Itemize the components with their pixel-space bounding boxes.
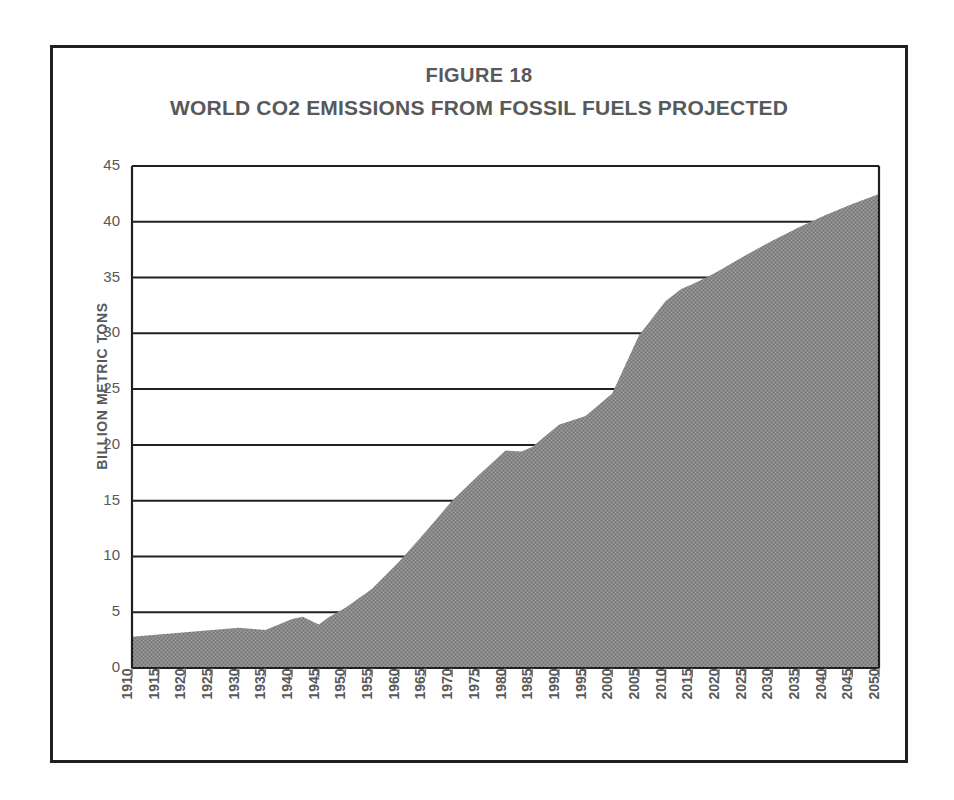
y-tick-label: 35	[103, 268, 120, 285]
x-tick-label: 2030	[759, 668, 775, 699]
x-tick-label: 1915	[146, 668, 162, 699]
x-tick-label: 1985	[519, 668, 535, 699]
x-tick-label: 1940	[279, 668, 295, 699]
x-tick-label: 1960	[386, 668, 402, 699]
y-tick-labels: 051015202530354045	[103, 156, 120, 675]
y-tick-label: 15	[103, 491, 120, 508]
x-tick-label: 1930	[226, 668, 242, 699]
y-tick-label: 10	[103, 546, 120, 563]
y-tick-label: 45	[103, 156, 120, 173]
y-tick-label: 20	[103, 435, 120, 452]
x-tick-label: 2015	[679, 668, 695, 699]
x-tick-label: 1945	[306, 668, 322, 699]
x-tick-label: 1980	[493, 668, 509, 699]
x-tick-labels: 1910191519201925193019351940194519501955…	[119, 668, 882, 699]
y-tick-label: 25	[103, 379, 120, 396]
x-tick-label: 1935	[252, 668, 268, 699]
x-tick-label: 1970	[439, 668, 455, 699]
x-tick-label: 2025	[733, 668, 749, 699]
x-tick-label: 1920	[172, 668, 188, 699]
x-tick-label: 2020	[706, 668, 722, 699]
x-tick-label: 2050	[866, 668, 882, 699]
x-tick-label: 1990	[546, 668, 562, 699]
x-tick-label: 2045	[839, 668, 855, 699]
x-tick-label: 1955	[359, 668, 375, 699]
y-tick-label: 5	[112, 602, 120, 619]
x-tick-label: 1965	[412, 668, 428, 699]
x-tick-label: 2005	[626, 668, 642, 699]
x-tick-label: 2035	[786, 668, 802, 699]
series-area	[132, 194, 879, 668]
x-tick-label: 1910	[119, 668, 135, 699]
x-tick-label: 1995	[573, 668, 589, 699]
emissions-area	[132, 194, 879, 668]
x-tick-label: 1925	[199, 668, 215, 699]
x-tick-label: 1975	[466, 668, 482, 699]
figure-root: FIGURE 18 WORLD CO2 EMISSIONS FROM FOSSI…	[0, 0, 954, 800]
y-tick-label: 40	[103, 212, 120, 229]
x-tick-label: 2000	[599, 668, 615, 699]
area-chart: 051015202530354045 191019151920192519301…	[53, 48, 911, 766]
x-tick-label: 1950	[332, 668, 348, 699]
y-tick-label: 30	[103, 323, 120, 340]
x-tick-label: 2010	[653, 668, 669, 699]
x-tick-label: 2040	[813, 668, 829, 699]
figure-frame: FIGURE 18 WORLD CO2 EMISSIONS FROM FOSSI…	[50, 45, 908, 763]
